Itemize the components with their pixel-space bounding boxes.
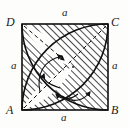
side-label-right: a bbox=[112, 60, 118, 71]
side-label-top: a bbox=[62, 7, 68, 18]
vertex-label-B: B bbox=[111, 104, 118, 116]
vertex-label-C: C bbox=[111, 16, 119, 28]
center-point bbox=[72, 66, 74, 68]
side-label-left: a bbox=[11, 60, 17, 71]
geometry-figure: A B C D a a a a bbox=[0, 0, 129, 128]
side-label-bottom: a bbox=[61, 112, 67, 123]
vertex-label-A: A bbox=[6, 104, 13, 116]
figure-canvas bbox=[0, 0, 129, 128]
vertex-label-D: D bbox=[6, 16, 15, 28]
